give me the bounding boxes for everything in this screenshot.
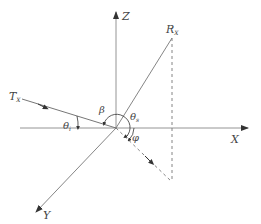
theta-i-arc [77, 116, 78, 128]
ground-projection [116, 128, 172, 182]
scattering-geometry-diagram: Z X Y TX RX θi β θs φ [0, 0, 261, 224]
ground-projection-arrow [145, 156, 152, 163]
x-axis-label: X [230, 133, 240, 146]
z-axis-label: Z [121, 10, 130, 23]
y-axis-label: Y [43, 209, 52, 222]
beta-label: β [98, 104, 105, 115]
y-axis [36, 128, 116, 212]
beta-arc [104, 114, 123, 124]
receiver-label: RX [165, 23, 179, 36]
scattered-ray [116, 38, 172, 128]
theta-s-arc [123, 116, 130, 137]
theta-i-label: θi [63, 120, 71, 132]
phi-label: φ [132, 132, 139, 143]
transmitter-label: TX [9, 90, 21, 103]
theta-s-label: θs [130, 111, 139, 123]
